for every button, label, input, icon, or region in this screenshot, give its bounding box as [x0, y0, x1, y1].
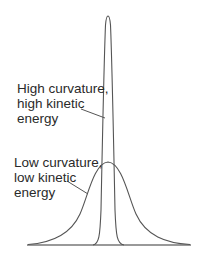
label-high-curvature: High curvature, high kinetic energy: [17, 81, 109, 126]
narrow-curve: [93, 16, 124, 245]
curvature-diagram: [0, 0, 202, 263]
label-high-line-1: High curvature,: [17, 81, 109, 96]
label-high-line-3: energy: [17, 111, 109, 126]
label-low-curvature: Low curvature, low kinetic energy: [14, 155, 103, 200]
label-low-line-3: energy: [14, 185, 103, 200]
label-low-line-2: low kinetic: [14, 170, 103, 185]
label-low-line-1: Low curvature,: [14, 155, 103, 170]
label-high-line-2: high kinetic: [17, 96, 109, 111]
